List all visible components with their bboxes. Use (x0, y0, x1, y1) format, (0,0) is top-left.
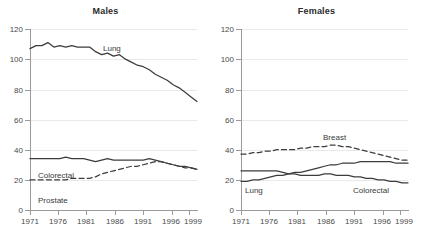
series-line-lung (241, 162, 408, 182)
series-label-colorectal: Colorectal (38, 171, 74, 180)
figure-root: Males 120 100 80 60 40 20 0 (0, 0, 422, 244)
series-label-lung: Lung (245, 186, 263, 195)
series-label-prostate: Prostate (38, 196, 68, 205)
series-line-colorectal (30, 157, 197, 169)
series-label-lung: Lung (103, 44, 121, 53)
series-curves-females (211, 0, 422, 244)
series-label-breast: Breast (323, 133, 346, 142)
series-label-colorectal: Colorectal (353, 186, 389, 195)
series-line-breast (241, 145, 408, 160)
panel-females: Females 120 100 80 60 40 20 0 (211, 0, 422, 244)
series-curves-males (0, 0, 211, 244)
panel-males: Males 120 100 80 60 40 20 0 (0, 0, 211, 244)
series-line-colorectal (241, 171, 408, 183)
